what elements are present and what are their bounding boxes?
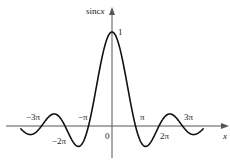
y-axis-label: sincx [86,6,105,16]
tick-label-pi: π [140,112,145,122]
x-axis-arrow-icon [221,123,229,129]
y-axis-arrow-icon [109,7,115,15]
tick-label-2pi: 2π [160,131,170,141]
peak-label: 1 [118,27,123,37]
origin-label: 0 [105,131,110,141]
tick-label-3pi: 3π [184,112,194,122]
x-axis-label: x [222,131,227,141]
tick-label-neg2pi: −2π [52,136,67,146]
tick-label-negpi: −π [78,112,88,122]
tick-label-neg3pi: −3π [26,112,41,122]
sinc-chart: sincx 1 0 x −3π −2π −π π 2π 3π [0,0,230,164]
